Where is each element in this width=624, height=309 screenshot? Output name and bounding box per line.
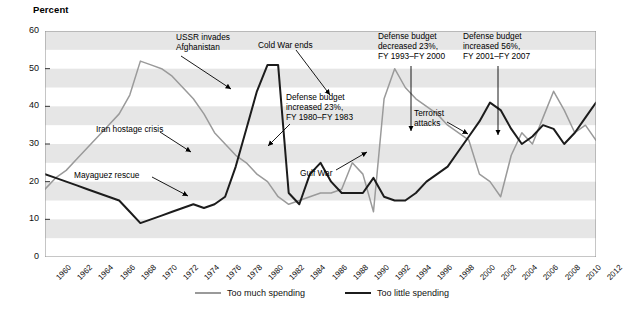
- x-tick-label: 1982: [287, 263, 306, 282]
- x-tick-label: 2010: [584, 263, 603, 282]
- y-tick-label: 20: [17, 176, 39, 186]
- legend-swatch-too-little-icon: [345, 292, 371, 294]
- legend-label-too-little: Too little spending: [377, 288, 449, 298]
- x-tick-label: 2006: [542, 263, 561, 282]
- x-tick-label: 1960: [54, 263, 73, 282]
- y-tick-label: 30: [17, 138, 39, 148]
- y-tick-label: 40: [17, 100, 39, 110]
- plot-band: [45, 144, 596, 163]
- x-tick-label: 2008: [563, 263, 582, 282]
- x-tick-label: 1978: [245, 263, 264, 282]
- annotation-gulf-war: Gulf War: [300, 168, 332, 178]
- plot-band: [45, 219, 596, 238]
- x-tick-label: 1976: [224, 263, 243, 282]
- x-tick-label: 1964: [97, 263, 116, 282]
- x-tick-label: 1986: [330, 263, 349, 282]
- x-tick-label: 1966: [118, 263, 137, 282]
- x-tick-label: 1992: [393, 263, 412, 282]
- plot-band: [45, 182, 596, 201]
- x-tick-label: 1968: [139, 263, 158, 282]
- annotation-cold-war-ends: Cold War ends: [258, 40, 313, 50]
- x-tick-label: 1972: [181, 263, 200, 282]
- x-tick-label: 2000: [478, 263, 497, 282]
- line-chart-svg: [45, 31, 596, 257]
- x-tick-label: 2002: [499, 263, 518, 282]
- annotation-defense-budget-increased-23: Defense budget increased 23%, FY 1980–FY…: [286, 92, 353, 123]
- plot-band: [45, 69, 596, 88]
- legend-label-too-much: Too much spending: [227, 288, 305, 298]
- annotation-mayaguez-rescue: Mayaguez rescue: [74, 170, 140, 180]
- x-tick-label: 1974: [203, 263, 222, 282]
- y-tick-label: 50: [17, 63, 39, 73]
- legend-swatch-too-much-icon: [195, 292, 221, 294]
- y-axis-title: Percent: [33, 4, 69, 15]
- legend-item-too-much: Too much spending: [195, 288, 305, 298]
- x-tick-label: 1998: [457, 263, 476, 282]
- x-tick-label: 1970: [160, 263, 179, 282]
- annotation-defense-budget-decreased: Defense budget decreased 23%, FY 1993–FY…: [378, 31, 445, 62]
- x-tick-label: 1996: [436, 263, 455, 282]
- y-tick-label: 60: [17, 25, 39, 35]
- annotation-iran-hostage-crisis: Iran hostage crisis: [96, 124, 163, 134]
- x-tick-label: 2004: [520, 263, 539, 282]
- x-tick-label: 2012: [605, 263, 624, 282]
- chart-legend: Too much spending Too little spending: [0, 288, 607, 306]
- x-tick-label: 1988: [351, 263, 370, 282]
- x-tick-label: 1962: [75, 263, 94, 282]
- y-tick-label: 0: [17, 251, 39, 261]
- annotation-defense-budget-increased-56: Defense budget increased 56%, FY 2001–FY…: [463, 31, 530, 62]
- plot-area: [45, 31, 596, 257]
- x-tick-label: 1984: [309, 263, 328, 282]
- x-tick-label: 1990: [372, 263, 391, 282]
- y-tick-label: 10: [17, 213, 39, 223]
- x-tick-label: 1994: [414, 263, 433, 282]
- annotation-terrorist-attacks: Terrorist attacks: [414, 108, 444, 128]
- x-tick-label: 1980: [266, 263, 285, 282]
- annotation-ussr-invades-afghanistan: USSR invades Afghanistan: [176, 32, 230, 52]
- legend-item-too-little: Too little spending: [345, 288, 449, 298]
